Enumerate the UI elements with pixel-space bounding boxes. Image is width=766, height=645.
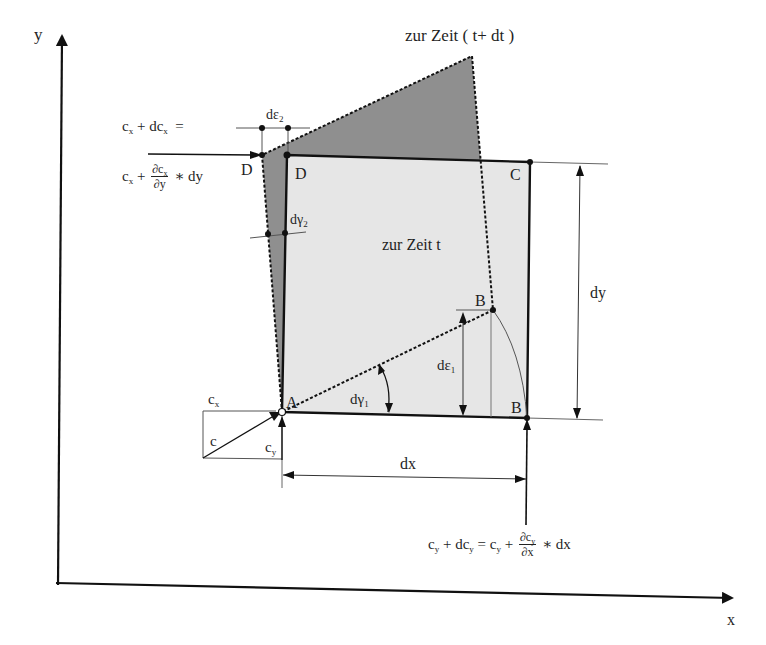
cx-label: cx [208,392,219,407]
point-D-prime-marker [259,152,265,158]
original-element [282,155,530,418]
point-C-label: C [510,167,521,183]
dy-label: dy [590,285,606,301]
x-axis-label: x [727,612,735,628]
point-B-prime-label: B [475,293,486,309]
point-B-marker [524,415,530,421]
dx-label: dx [400,456,416,472]
x-axis [56,583,732,598]
point-A-label: A [286,395,298,411]
cx-plus-dcx-equation: cx + dcx = [122,119,184,134]
cy-partial-equation: cy + dcy = cy + ∂cy∂x ∗ dx [428,531,571,558]
d-gamma2-label: dγ2 [290,213,308,227]
dy-dimension [577,166,580,418]
time-t-plus-dt-label: zur Zeit ( t+ dt ) [405,27,514,44]
cy-label: cy [265,440,276,455]
time-t-label: zur Zeit t [382,237,441,253]
d-gamma1-label: dγ1 [350,392,369,407]
deformation-diagram [0,0,766,645]
d-eps2-label: dε2 [266,108,283,122]
c-label: c [210,434,217,449]
cx-plus-dcx-arrow [148,154,254,155]
point-C-marker [527,159,533,165]
point-A-marker [279,409,286,416]
dx-dimension [283,475,526,479]
point-B-label: B [511,400,522,416]
d-eps1-label: dε1 [437,358,455,373]
point-B-prime-marker [490,307,496,313]
cx-partial-equation: cx + ∂cx∂y ∗ dy [122,163,203,190]
cy-plus-dcy-arrow [526,428,527,525]
point-D-prime-label: D [241,162,253,178]
point-D-marker [284,152,291,159]
point-D-label: D [295,166,307,182]
y-axis [58,36,62,585]
y-axis-label: y [34,26,43,43]
